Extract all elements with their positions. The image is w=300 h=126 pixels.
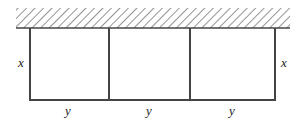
label-bottom-y-1: y [63, 103, 71, 118]
label-bottom-y-3: y [227, 103, 235, 118]
label-bottom-y-2: y [144, 103, 152, 118]
fence [29, 28, 276, 100]
wall [16, 8, 290, 28]
label-right-x: x [280, 55, 287, 70]
fence-diagram: x x y y y [0, 0, 300, 126]
wall-hatching [16, 8, 290, 28]
label-left-x: x [17, 55, 24, 70]
